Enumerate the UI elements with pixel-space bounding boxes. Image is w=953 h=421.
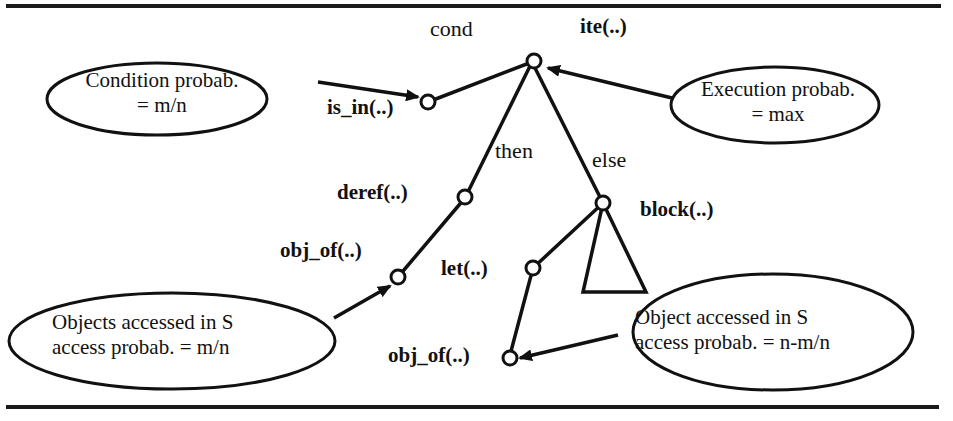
node-label-obj-of-then: obj_of(..) [280,238,362,263]
node-obj-of-then [391,270,405,284]
node-ite [527,54,541,68]
annotation-object-else-line1: Object accessed in S [635,305,830,330]
edge-label-then: then [495,138,533,164]
annotation-execution-line1: Execution probab. [678,77,878,102]
node-deref [458,190,472,204]
annotation-objects-then-line2: access probab. = m/n [52,335,233,360]
annotation-condition: Condition probab. = m/n [62,68,262,118]
node-label-block: block(..) [640,197,714,222]
node-let [526,261,540,275]
node-label-obj-of-else: obj_of(..) [388,343,470,368]
edge-else [532,62,603,203]
node-block [596,196,610,210]
annotation-condition-line1: Condition probab. [62,68,262,93]
annotation-objects-then-line1: Objects accessed in S [52,310,233,335]
edge-label-cond: cond [430,16,473,42]
node-label-deref: deref(..) [337,180,408,205]
node-label-let: let(..) [441,256,488,281]
node-label-ite: ite(..) [580,14,627,39]
node-label-is-in: is_in(..) [327,95,394,120]
node-is-in [421,95,435,109]
edge-block-let [533,203,603,268]
edge-label-else: else [592,147,626,173]
arrow-objects-then [334,286,390,318]
annotation-execution: Execution probab. = max [678,77,878,127]
annotation-execution-line2: = max [678,102,878,127]
edge-let-objof [510,268,533,355]
annotation-object-else-line2: access probab. = n-m/n [635,330,830,355]
subtree-triangle [583,203,646,292]
annotation-objects-then: Objects accessed in S access probab. = m… [52,310,233,360]
arrow-execution [548,68,672,98]
arrow-object-else [520,335,618,358]
node-obj-of-else [503,351,517,365]
annotation-condition-line2: = m/n [62,93,262,118]
annotation-object-else: Object accessed in S access probab. = n-… [635,305,830,355]
